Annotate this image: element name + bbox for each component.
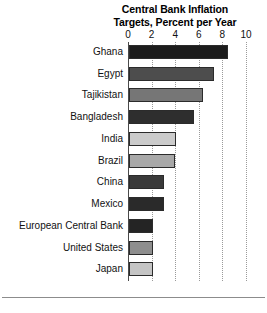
category-label: Mexico bbox=[91, 197, 123, 211]
bar bbox=[129, 67, 214, 81]
bottom-divider bbox=[2, 297, 265, 298]
bar bbox=[129, 132, 176, 146]
chart-title: Central Bank Inflation Targets, Percent … bbox=[86, 3, 264, 29]
chart-title-line-2: Targets, Percent per Year bbox=[86, 16, 264, 29]
category-label: India bbox=[101, 132, 123, 146]
chart-row: China bbox=[128, 172, 246, 194]
plot-area: GhanaEgyptTajikistanBangladeshIndiaBrazi… bbox=[128, 42, 246, 281]
x-axis-tick-label: 6 bbox=[196, 29, 202, 40]
x-axis-tick-label: 2 bbox=[149, 29, 155, 40]
category-label: European Central Bank bbox=[19, 219, 123, 233]
category-label: Egypt bbox=[97, 67, 123, 81]
chart-row: Mexico bbox=[128, 194, 246, 216]
x-axis-tick-label: 10 bbox=[240, 29, 251, 40]
bar bbox=[129, 262, 153, 276]
bar bbox=[129, 110, 194, 124]
category-label: Bangladesh bbox=[70, 110, 123, 124]
chart-row: Ghana bbox=[128, 42, 246, 64]
bar bbox=[129, 197, 164, 211]
x-axis-tick-label: 8 bbox=[220, 29, 226, 40]
chart-title-line-1: Central Bank Inflation bbox=[86, 3, 264, 16]
category-label: Tajikistan bbox=[82, 88, 123, 102]
bar bbox=[129, 154, 175, 168]
x-axis-tick-labels: 0246810 bbox=[0, 29, 267, 42]
category-label: United States bbox=[63, 241, 123, 255]
category-label: Japan bbox=[96, 262, 123, 276]
category-label: China bbox=[97, 175, 123, 189]
bar bbox=[129, 45, 228, 59]
x-axis-tick-label: 0 bbox=[125, 29, 131, 40]
bar bbox=[129, 175, 164, 189]
bar bbox=[129, 219, 153, 233]
chart-row: Bangladesh bbox=[128, 107, 246, 129]
chart-row: Japan bbox=[128, 259, 246, 281]
category-label: Brazil bbox=[98, 154, 123, 168]
chart-row: Tajikistan bbox=[128, 85, 246, 107]
chart-figure: Central Bank Inflation Targets, Percent … bbox=[0, 0, 267, 313]
chart-row: Egypt bbox=[128, 64, 246, 86]
chart-row: India bbox=[128, 129, 246, 151]
x-axis-tick-label: 4 bbox=[172, 29, 178, 40]
gridline bbox=[246, 42, 247, 281]
chart-row: United States bbox=[128, 238, 246, 260]
chart-row: Brazil bbox=[128, 151, 246, 173]
bar bbox=[129, 88, 203, 102]
chart-row: European Central Bank bbox=[128, 216, 246, 238]
category-label: Ghana bbox=[93, 45, 123, 59]
bar bbox=[129, 241, 153, 255]
